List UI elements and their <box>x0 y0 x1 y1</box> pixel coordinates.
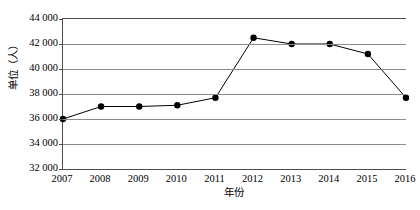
y-tick-label: 36 000 <box>4 112 58 123</box>
y-tick-mark <box>59 94 63 95</box>
y-tick-label: 42 000 <box>4 37 58 48</box>
series-line <box>63 38 406 119</box>
y-tick-label: 34 000 <box>4 137 58 148</box>
plot-inner <box>63 19 406 169</box>
gridline <box>63 144 406 145</box>
x-tick-label: 2008 <box>80 172 120 185</box>
x-axis-title: 年份 <box>62 186 405 199</box>
x-tick-label: 2012 <box>233 172 273 185</box>
data-point-marker <box>136 103 142 109</box>
y-tick-label: 44 000 <box>4 12 58 23</box>
data-point-marker <box>250 35 256 41</box>
y-tick-mark <box>59 19 63 20</box>
data-point-marker <box>403 95 409 101</box>
x-tick-label: 2010 <box>156 172 196 185</box>
gridline <box>63 69 406 70</box>
x-axis-tick-labels: 2007200820092010201120122013201420152016 <box>62 172 405 186</box>
x-tick-label: 2013 <box>271 172 311 185</box>
gridline <box>63 169 406 170</box>
plot-area <box>62 18 406 169</box>
gridline <box>63 44 406 45</box>
gridline <box>63 119 406 120</box>
x-tick-label: 2014 <box>309 172 349 185</box>
y-tick-mark <box>59 44 63 45</box>
x-tick-label: 2007 <box>42 172 82 185</box>
y-tick-mark <box>59 169 63 170</box>
x-tick-label: 2009 <box>118 172 158 185</box>
y-tick-label: 40 000 <box>4 62 58 73</box>
data-point-marker <box>174 102 180 108</box>
y-tick-mark <box>59 69 63 70</box>
y-tick-mark <box>59 119 63 120</box>
y-tick-label: 38 000 <box>4 87 58 98</box>
data-point-marker <box>212 95 218 101</box>
data-point-marker <box>365 51 371 57</box>
gridline <box>63 94 406 95</box>
x-tick-label: 2015 <box>347 172 387 185</box>
y-tick-mark <box>59 144 63 145</box>
x-tick-label: 2011 <box>194 172 234 185</box>
x-tick-label: 2016 <box>385 172 420 185</box>
data-point-marker <box>98 103 104 109</box>
